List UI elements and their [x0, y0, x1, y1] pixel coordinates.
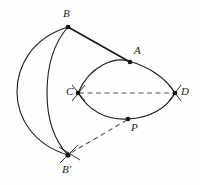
point-label-c: C	[66, 86, 73, 97]
point-label-d: D	[181, 86, 189, 97]
figure-canvas	[0, 0, 200, 185]
outer-arc-b-to-bprime	[17, 27, 68, 155]
geometry-figure: B A C D P B'	[0, 0, 200, 185]
point-dot-b	[66, 25, 71, 30]
point-label-a: A	[134, 45, 141, 56]
dashed-segment-p-to-bprime	[69, 120, 127, 154]
point-label-b: B	[63, 8, 70, 19]
point-dot-c	[76, 91, 81, 96]
point-dot-bprime	[65, 152, 70, 157]
point-dot-a	[128, 60, 133, 65]
inner-arc-b-to-bprime	[47, 27, 68, 155]
point-dot-d	[173, 91, 178, 96]
lens-lower-arc	[78, 93, 175, 119]
point-label-bprime: B'	[62, 164, 71, 175]
lens-upper-arc	[78, 60, 175, 93]
point-label-p: P	[131, 122, 138, 133]
point-dot-p	[126, 117, 131, 122]
segment-b-to-a	[68, 27, 130, 62]
